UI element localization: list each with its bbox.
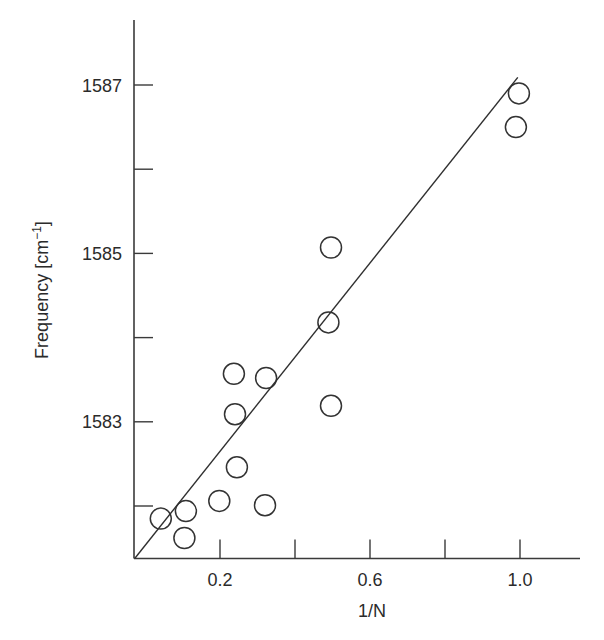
y-axis-title: Frequency [cm−1]	[30, 221, 52, 359]
x-tick-label: 0.2	[207, 570, 232, 590]
y-axis: 158315851587	[82, 20, 153, 559]
data-point-marker	[321, 237, 342, 258]
data-point-marker	[225, 404, 246, 425]
y-axis-title-end: ]	[32, 221, 52, 226]
x-axis-title: 1/N	[358, 601, 386, 621]
data-point-marker	[255, 495, 276, 516]
linear-fit-line	[135, 77, 518, 558]
data-point-marker	[226, 457, 247, 478]
x-tick-label: 0.6	[357, 570, 382, 590]
data-point-marker	[223, 363, 244, 384]
data-point-marker	[209, 490, 230, 511]
scatter-chart: 158315851587 0.20.61.0 1/N Frequency [cm…	[0, 0, 604, 640]
data-point-marker	[505, 117, 526, 138]
x-tick-label: 1.0	[507, 570, 532, 590]
plot-area	[135, 77, 530, 558]
y-tick-label: 1587	[82, 76, 122, 96]
data-point-marker	[174, 528, 195, 549]
x-axis: 0.20.61.0	[134, 540, 580, 590]
data-point-marker	[256, 368, 277, 389]
y-axis-title-superscript: −1	[30, 226, 44, 240]
y-axis-title-main: Frequency [cm	[32, 240, 52, 359]
x-axis-ticks: 0.20.61.0	[207, 540, 532, 590]
y-tick-label: 1583	[82, 412, 122, 432]
data-point-marker	[321, 395, 342, 416]
y-tick-label: 1585	[82, 244, 122, 264]
y-axis-ticks: 158315851587	[82, 76, 153, 507]
